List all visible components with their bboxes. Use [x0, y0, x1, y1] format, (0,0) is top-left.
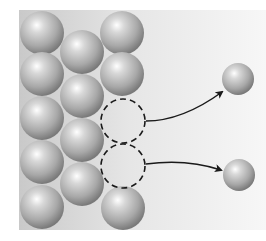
- lattice-atom: [60, 118, 104, 162]
- vacancy-diagram: [0, 0, 266, 241]
- lattice-atom: [60, 162, 104, 206]
- lattice-atom: [20, 185, 64, 229]
- lattice-atom: [60, 74, 104, 118]
- lattice-atom: [60, 30, 104, 74]
- lattice-atom: [20, 140, 64, 184]
- lattice-atom: [101, 186, 145, 230]
- lattice-atom: [20, 52, 64, 96]
- lattice-atom: [100, 11, 144, 55]
- lattice-atom: [20, 96, 64, 140]
- ejected-atom: [222, 63, 254, 95]
- ejected-atom: [223, 159, 255, 191]
- lattice-atom: [100, 52, 144, 96]
- lattice-atom: [20, 11, 64, 55]
